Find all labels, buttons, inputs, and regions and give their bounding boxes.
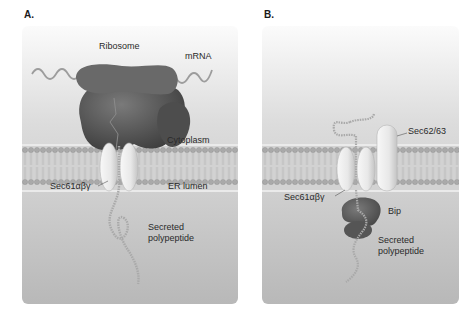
panel-a-illustration — [22, 26, 238, 304]
panel-b-posttranslational: Sec62/63 Sec61αβγ Bip Secreted polypepti… — [262, 26, 459, 304]
label-ribosome: Ribosome — [99, 41, 140, 51]
label-sec61: Sec61αβγ — [284, 192, 324, 202]
panel-b-illustration — [262, 26, 459, 304]
sec61-channel-right-half — [357, 147, 375, 191]
label-er-lumen: ER lumen — [168, 181, 208, 191]
label-cytoplasm: Cytoplasm — [167, 135, 210, 145]
label-secreted-line1: Secreted — [148, 222, 184, 232]
sec61-channel-left-half — [337, 147, 355, 191]
panel-a-label: A. — [24, 9, 34, 20]
panel-a-cotranslational: Ribosome mRNA Cytoplasm Sec61αβγ ER lume… — [22, 26, 238, 304]
label-secreted-line2: polypeptide — [378, 246, 424, 256]
panel-b-label: B. — [264, 9, 274, 20]
bip-chaperone-lower — [344, 221, 372, 239]
label-sec61: Sec61αβγ — [50, 181, 90, 191]
label-sec62-63: Sec62/63 — [408, 126, 446, 136]
label-bip: Bip — [388, 206, 401, 216]
label-mrna: mRNA — [185, 51, 212, 61]
ribosome-small-subunit — [76, 64, 178, 94]
label-secreted-line1: Secreted — [378, 235, 414, 245]
label-secreted-line2: polypeptide — [148, 233, 194, 243]
sec62-63-complex — [377, 125, 397, 191]
sec61-channel-right-half — [120, 143, 138, 191]
